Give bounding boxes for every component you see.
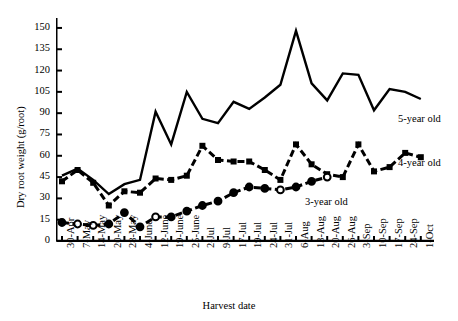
- x-axis-tick-label: 24-Sep: [409, 218, 420, 248]
- x-axis-tick-label: 17-Sep: [394, 218, 405, 248]
- x-axis-tick-label: 14-May: [97, 215, 108, 248]
- x-axis-tick-label: 10-Sep: [378, 218, 389, 248]
- x-axis-tick-label: 3-Sep: [362, 224, 373, 249]
- x-axis-tick-label: 20-Aug: [331, 216, 342, 248]
- x-axis-tick-label: 13-Aug: [316, 216, 327, 248]
- x-axis-tick-label: 24-Jul: [269, 222, 280, 248]
- x-axis-tick-label: 2-Jul: [206, 227, 217, 248]
- x-axis-tick-label: 30-Apr: [66, 218, 77, 248]
- x-axis-tick-label: 20-May: [113, 215, 124, 248]
- x-axis-tick-label: 9-Jul: [222, 227, 233, 248]
- x-axis-tick-label: 26-Aug: [347, 216, 358, 248]
- x-axis-tick-label: 7-May: [82, 220, 93, 248]
- series-label: 5-year old: [398, 113, 441, 124]
- x-axis-tick-labels: 30-Apr7-May14-May20-May28-May4-June12-Ju…: [0, 0, 458, 321]
- x-axis-tick-label: 6-Aug: [300, 221, 311, 248]
- chart-figure: Dry root weight (g/root) 015304560759010…: [0, 0, 458, 321]
- x-axis-tick-label: 25-June: [191, 215, 202, 248]
- x-axis-tick-label: 1-Oct: [425, 224, 436, 248]
- x-axis-tick-label: 17-Jul: [238, 222, 249, 248]
- series-label: 4-year old: [398, 157, 441, 168]
- x-axis-title: Harvest date: [0, 300, 458, 311]
- x-axis-tick-label: 12-June: [160, 215, 171, 248]
- x-axis-tick-label: 31-Jul: [284, 222, 295, 248]
- x-axis-tick-label: 19-Jul: [253, 222, 264, 248]
- series-label: 3-year old: [305, 196, 348, 207]
- x-axis-tick-label: 4-June: [144, 220, 155, 248]
- x-axis-tick-label: 19-June: [175, 215, 186, 248]
- x-axis-tick-label: 28-May: [128, 215, 139, 248]
